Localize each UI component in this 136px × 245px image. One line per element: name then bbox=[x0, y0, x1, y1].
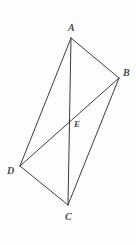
segment-DA bbox=[20, 38, 71, 166]
segment-DB bbox=[20, 78, 119, 166]
segment-BC bbox=[68, 78, 119, 205]
vertex-label-c: C bbox=[65, 212, 72, 222]
vertex-label-a: A bbox=[68, 23, 75, 33]
vertex-label-d: D bbox=[7, 166, 14, 176]
vertex-label-b: B bbox=[123, 68, 130, 78]
segments-group bbox=[20, 38, 119, 205]
vertex-label-e: E bbox=[74, 119, 80, 129]
segment-AB bbox=[71, 38, 119, 78]
segment-CD bbox=[20, 166, 68, 205]
geometry-figure: A B C D E bbox=[0, 0, 136, 245]
geometry-canvas bbox=[0, 0, 136, 245]
